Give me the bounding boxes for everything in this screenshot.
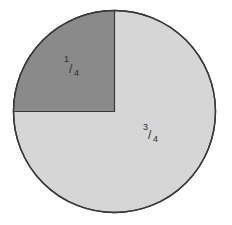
pie-chart: 1 / 4 3 / 4	[0, 0, 232, 225]
svg-text:4: 4	[153, 134, 158, 144]
svg-text:4: 4	[74, 68, 79, 78]
